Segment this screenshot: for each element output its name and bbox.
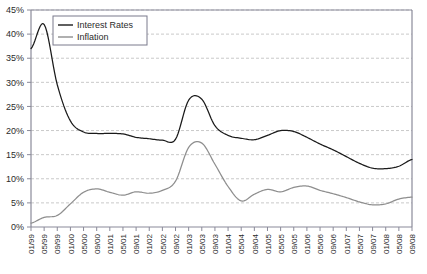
chart-legend: Interest Rates Inflation xyxy=(53,16,147,45)
legend-label-interest-rates: Interest Rates xyxy=(77,20,134,30)
y-axis-tick-label: 10% xyxy=(6,174,24,184)
x-axis-tick-label: 05/02 xyxy=(159,233,168,254)
y-axis-tick-label: 35% xyxy=(6,53,24,63)
x-axis-tick-label: 01/06 xyxy=(303,233,312,254)
x-axis-tick-label: 01/03 xyxy=(185,233,194,254)
x-axis-tick-label: 09/02 xyxy=(172,233,181,254)
x-axis-tick-label: 05/04 xyxy=(237,233,246,254)
x-axis-tick-label: 09/06 xyxy=(329,233,338,254)
x-axis-tick-label: 05/99 xyxy=(40,233,49,254)
x-axis-tick-label: 05/06 xyxy=(316,233,325,254)
x-axis-tick-label: 05/05 xyxy=(277,233,286,254)
y-axis-tick-label: 40% xyxy=(6,29,24,39)
x-axis-tick-label: 01/08 xyxy=(382,233,391,254)
y-axis-tick-label: 25% xyxy=(6,102,24,112)
x-axis-ticks xyxy=(31,227,412,231)
x-axis-tick-label: 09/01 xyxy=(132,233,141,254)
x-axis-tick-label: 05/07 xyxy=(356,233,365,254)
series-line-inflation xyxy=(31,142,412,224)
x-axis-tick-label: 09/04 xyxy=(251,233,260,254)
y-axis-tick-label: 15% xyxy=(6,150,24,160)
y-axis-tick-label: 30% xyxy=(6,78,24,88)
x-axis-tick-label: 09/03 xyxy=(211,233,220,254)
x-axis-tick-label: 01/00 xyxy=(67,233,76,254)
y-axis-tick-label: 20% xyxy=(6,126,24,136)
x-axis-tick-label: 01/07 xyxy=(343,233,352,254)
x-axis-tick-label: 09/99 xyxy=(53,233,62,254)
x-axis-labels: 01/9905/9909/9901/0005/0009/0001/0105/01… xyxy=(27,233,417,254)
line-chart: 0%5%10%15%20%25%30%35%40%45% 01/9905/990… xyxy=(0,0,427,274)
x-axis-tick-label: 05/08 xyxy=(395,233,404,254)
x-axis-tick-label: 01/01 xyxy=(106,233,115,254)
x-axis-tick-label: 05/01 xyxy=(119,233,128,254)
y-axis-tick-label: 5% xyxy=(11,198,24,208)
y-axis-labels: 0%5%10%15%20%25%30%35%40%45% xyxy=(6,5,24,232)
x-axis-tick-label: 05/00 xyxy=(80,233,89,254)
x-axis-tick-label: 09/07 xyxy=(369,233,378,254)
y-axis-tick-label: 45% xyxy=(6,5,24,15)
x-axis-tick-label: 09/08 xyxy=(408,233,417,254)
chart-canvas: 0%5%10%15%20%25%30%35%40%45% 01/9905/990… xyxy=(0,0,427,274)
x-axis-tick-label: 09/00 xyxy=(93,233,102,254)
x-axis-tick-label: 05/03 xyxy=(198,233,207,254)
x-axis-tick-label: 01/04 xyxy=(224,233,233,254)
x-axis-tick-label: 01/02 xyxy=(145,233,154,254)
x-axis-tick-label: 01/99 xyxy=(27,233,36,254)
x-axis-tick-label: 01/05 xyxy=(264,233,273,254)
y-axis-tick-label: 0% xyxy=(11,222,24,232)
x-axis-tick-label: 09/05 xyxy=(290,233,299,254)
legend-label-inflation: Inflation xyxy=(77,32,109,42)
